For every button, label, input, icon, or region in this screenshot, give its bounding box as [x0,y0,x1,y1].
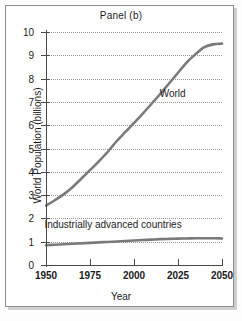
x-axis-label: Year [0,291,242,302]
y-tick-label-7: 7 [8,96,34,107]
x-tick-label-1975: 1975 [68,270,112,281]
y-tick-label-2: 2 [8,213,34,224]
series-curves [46,32,222,265]
y-tick-label-10: 10 [8,27,34,38]
y-tick-10 [41,32,50,33]
chart-title: Panel (b) [0,10,242,21]
x-tick-1975 [90,259,91,266]
y-tick-label-1: 1 [8,236,34,247]
chart-figure: Panel (b) 012345678910 19501975200020252… [0,0,242,321]
x-tick-2050 [222,259,223,266]
y-tick-label-3: 3 [8,190,34,201]
y-tick-1 [41,242,50,243]
y-tick-label-6: 6 [8,120,34,131]
y-axis-label: World Population (billions) [32,51,43,241]
x-tick-label-2025: 2025 [156,270,200,281]
series-line-industrially-advanced-countries [46,238,222,245]
x-tick-2000 [134,259,135,266]
y-tick-label-8: 8 [8,73,34,84]
x-tick-label-2050: 2050 [200,270,242,281]
y-tick-label-9: 9 [8,50,34,61]
plot-area [46,32,222,265]
y-tick-label-5: 5 [8,143,34,154]
x-tick-label-1950: 1950 [24,270,68,281]
x-tick-label-2000: 2000 [112,270,156,281]
x-tick-1950 [46,259,47,266]
series-annotation-industrially-advanced-countries: Industrially advanced countries [44,219,181,230]
series-line-world [46,44,222,206]
y-tick-label-4: 4 [8,166,34,177]
x-tick-2025 [178,259,179,266]
y-tick-label-0: 0 [8,260,34,271]
series-annotation-world: World [160,88,186,99]
